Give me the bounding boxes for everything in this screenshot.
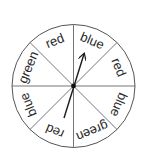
spinner-diagram: blue red blue green red blue green red — [0, 0, 145, 158]
center-pivot — [71, 84, 76, 89]
